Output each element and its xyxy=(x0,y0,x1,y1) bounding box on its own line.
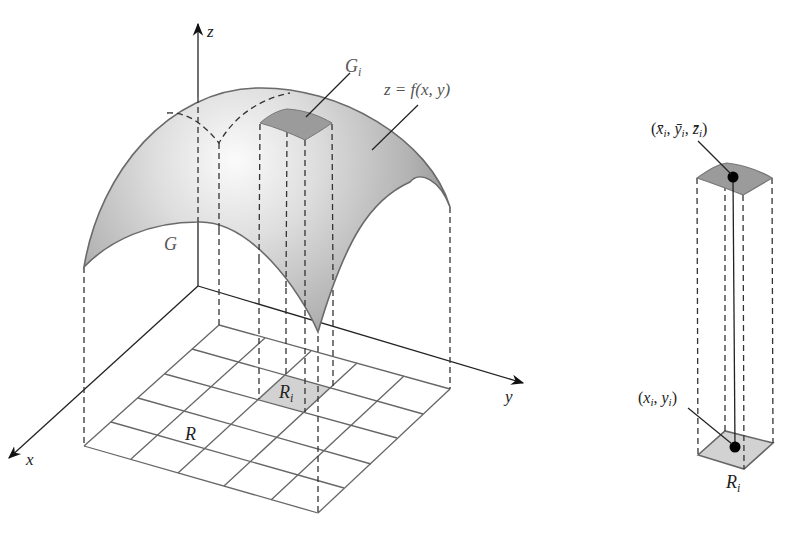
top-point-label: (x̄i, ȳi, z̄i) xyxy=(651,120,707,139)
y-axis xyxy=(198,286,523,383)
region-grid xyxy=(84,325,450,513)
sample-vertical xyxy=(733,177,735,447)
y-axis-label: y xyxy=(503,387,513,406)
surface-label: G xyxy=(164,234,177,254)
detail-column: (x̄i, ȳi, z̄i) (xi, yi) Ri xyxy=(638,120,773,495)
equation-label: z = f(x, y) xyxy=(383,80,451,99)
region-label: R xyxy=(184,424,196,444)
double-integral-figure: z y x G z = f(x, y) Gi R Ri (x̄i, ȳi, z̄… xyxy=(0,0,802,540)
patch-label: Gi xyxy=(345,56,361,79)
z-axis-label: z xyxy=(206,22,214,41)
x-axis xyxy=(9,286,198,458)
subregion-ri-fill xyxy=(257,375,331,412)
detail-subregion-label: Ri xyxy=(725,472,740,495)
main-diagram: z y x G z = f(x, y) Gi R Ri xyxy=(9,22,523,513)
top-sample-point xyxy=(728,172,739,183)
x-axis-label: x xyxy=(25,450,34,469)
bottom-point-label: (xi, yi) xyxy=(638,389,677,408)
